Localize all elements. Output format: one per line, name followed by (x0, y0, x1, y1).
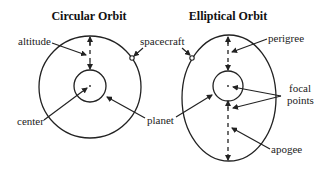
circular-orbit-title: Circular Orbit (51, 9, 126, 23)
elliptical-orbit-path (182, 35, 276, 161)
focal-points-label-line1: focal (289, 82, 311, 94)
altitude-pointer (52, 43, 86, 55)
planet-label: planet (147, 114, 174, 126)
spacecraft-pointer-elliptical (182, 48, 190, 55)
spacecraft-marker-elliptical (190, 56, 194, 60)
focal-points-label-line2: points (287, 94, 314, 106)
spacecraft-marker (130, 56, 134, 60)
apogee-label: apogee (271, 143, 302, 155)
altitude-label: altitude (18, 35, 51, 47)
center-dot (89, 85, 91, 87)
perigee-label: perigree (268, 32, 304, 44)
center-label: center (17, 115, 44, 127)
focal-point-1 (227, 85, 229, 87)
center-pointer (44, 88, 87, 120)
spacecraft-label: spacecraft (140, 35, 185, 47)
spacecraft-pointer (134, 48, 143, 56)
elliptical-orbit-panel: Elliptical Orbit perigree focal points a… (176, 9, 314, 161)
elliptical-orbit-title: Elliptical Orbit (189, 9, 267, 23)
orbit-diagram: Circular Orbit altitude spacecraft cente… (0, 0, 330, 172)
focal-pointer-2 (233, 96, 281, 108)
circular-orbit-panel: Circular Orbit altitude spacecraft cente… (17, 9, 185, 138)
